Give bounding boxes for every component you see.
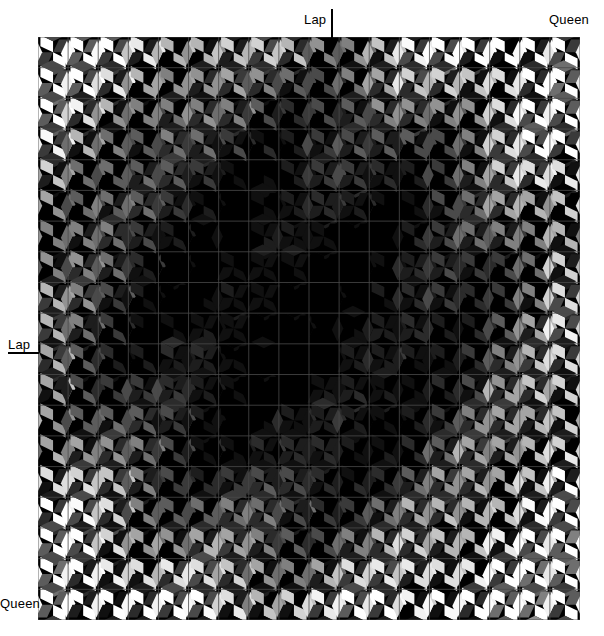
figure-canvas: Lap Lap Queen Queen	[0, 0, 604, 636]
lap-left-label: Lap	[8, 337, 30, 352]
lap-top-tick-mark	[331, 9, 333, 38]
queen-top-right-label: Queen	[549, 12, 589, 27]
pinwheel-tiling-image	[38, 37, 580, 620]
tiling-svg	[38, 37, 580, 620]
queen-bottom-left-label: Queen	[0, 596, 40, 611]
lap-top-label: Lap	[304, 12, 326, 27]
lap-left-tick-mark	[8, 352, 39, 354]
